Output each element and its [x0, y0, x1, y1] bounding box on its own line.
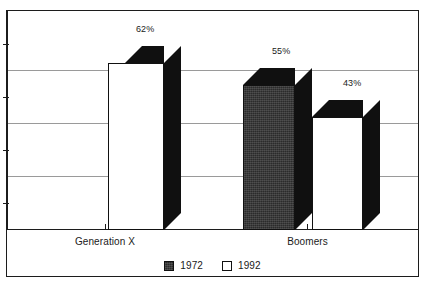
bar-side-face [295, 68, 312, 230]
legend-entry-1992: 1992 [222, 260, 261, 271]
category-label-boomers: Boomers [270, 236, 345, 247]
bar-value-label: 55% [272, 46, 290, 56]
bar-boomers-1972 [243, 68, 295, 230]
bar-side-face [363, 100, 380, 230]
gridline-60 [7, 70, 418, 71]
y-axis-tick [3, 97, 9, 98]
x-axis-tick [105, 224, 106, 230]
y-axis-tick [3, 150, 9, 151]
x-axis-tick [307, 224, 308, 230]
bar-value-label: 43% [343, 78, 361, 88]
bar-front-face [108, 63, 164, 230]
chart-title [0, 0, 425, 2]
bar-front-face [312, 117, 363, 230]
bar-top-face [108, 46, 164, 63]
bar-boomers-1992 [312, 100, 363, 230]
chart-legend: 1972 1992 [0, 260, 425, 271]
category-label-generation-x: Generation X [65, 236, 145, 247]
legend-entry-1972: 1972 [164, 260, 203, 271]
bar-front-face [243, 85, 295, 230]
legend-label: 1992 [238, 260, 261, 271]
bar-top-face [243, 68, 295, 85]
y-axis-tick [3, 44, 9, 45]
bar-generation-x-1992 [108, 46, 164, 230]
bar-top-face [312, 100, 363, 117]
bar-side-face [164, 46, 181, 230]
bar-chart-figure: 62% 55% 43% Generation X Boomers 1972 19… [0, 0, 425, 284]
legend-swatch-icon [222, 261, 232, 271]
y-axis-tick [3, 203, 9, 204]
legend-swatch-icon [164, 261, 174, 271]
bar-value-label: 62% [136, 24, 154, 34]
legend-label: 1972 [180, 260, 203, 271]
